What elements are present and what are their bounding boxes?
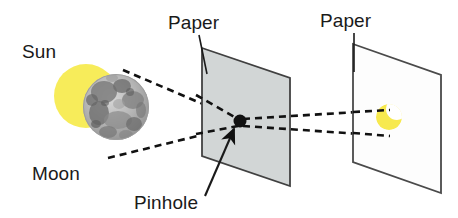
label-sun: Sun: [22, 41, 56, 62]
label-moon: Moon: [32, 163, 80, 184]
pinhole-camera-diagram: Sun Paper Paper Moon Pinhole: [0, 0, 458, 218]
label-paper-screen: Paper: [320, 10, 372, 31]
label-paper-pinhole: Paper: [168, 12, 220, 33]
moon-disk: [83, 74, 149, 140]
paper-with-pinhole: [202, 48, 290, 186]
moon-craters: [83, 74, 149, 140]
label-pinhole: Pinhole: [134, 192, 198, 213]
diagram-canvas: Sun Paper Paper Moon Pinhole: [0, 0, 458, 218]
pinhole-dot: [234, 115, 247, 128]
